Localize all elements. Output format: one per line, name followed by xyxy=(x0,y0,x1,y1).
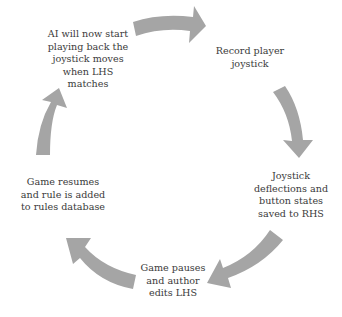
step-text-line: saved to RHS xyxy=(241,208,341,221)
step-record-joystick: Record player joystick xyxy=(205,45,295,70)
step-text-line: when LHS xyxy=(33,66,143,79)
arrow-playback-to-record xyxy=(133,6,206,43)
arrow-record-to-saved xyxy=(273,86,313,158)
step-text-line: AI will now start xyxy=(33,28,143,41)
step-ai-playback: AI will now start playing back the joyst… xyxy=(33,28,143,91)
step-text-line: joystick xyxy=(205,58,295,71)
arrow-pause-to-resume xyxy=(66,238,136,289)
arrow-saved-to-pause xyxy=(207,230,283,288)
cycle-diagram: AI will now start playing back the joyst… xyxy=(0,0,342,317)
step-text-line: deflections and xyxy=(241,183,341,196)
step-text-line: edits LHS xyxy=(128,287,218,300)
arrow-resume-to-playback xyxy=(36,88,67,155)
step-text-line: and rule is added xyxy=(8,189,118,202)
step-text-line: Game resumes xyxy=(8,176,118,189)
step-text-line: matches xyxy=(33,78,143,91)
step-text-line: Record player xyxy=(205,45,295,58)
step-text-line: button states xyxy=(241,195,341,208)
step-text-line: and author xyxy=(128,275,218,288)
step-text-line: Game pauses xyxy=(128,262,218,275)
step-text-line: to rules database xyxy=(8,201,118,214)
step-text-line: Joystick xyxy=(241,170,341,183)
step-game-pauses: Game pauses and author edits LHS xyxy=(128,262,218,300)
step-save-rhs: Joystick deflections and button states s… xyxy=(241,170,341,220)
step-text-line: joystick moves xyxy=(33,53,143,66)
step-game-resumes: Game resumes and rule is added to rules … xyxy=(8,176,118,214)
step-text-line: playing back the xyxy=(33,41,143,54)
